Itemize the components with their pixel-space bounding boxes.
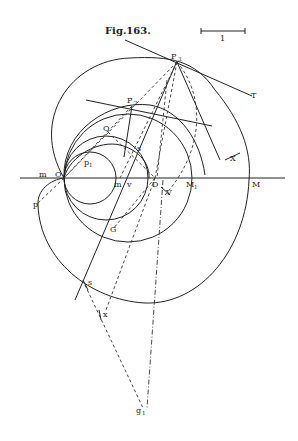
- label-m-left: m: [39, 170, 47, 179]
- label-p2-sub: 2: [134, 100, 138, 106]
- figure-163-diagram: Fig.163. 1: [0, 0, 298, 441]
- label-M: M: [252, 180, 260, 189]
- construction-lines: [36, 62, 240, 408]
- tangent-lines: [75, 40, 252, 300]
- label-s-lower: s: [88, 278, 92, 287]
- label-m-mid: m: [114, 180, 122, 189]
- label-v: v: [126, 180, 132, 189]
- point-labels: P 3 T P 2 Q p 1 s X m O m v D V M 1 M p …: [33, 52, 260, 416]
- label-m1-sub: 1: [194, 184, 198, 190]
- label-g1-sub: 1: [142, 410, 146, 416]
- arc-outer-large: [38, 58, 250, 303]
- label-x-upper: X: [230, 154, 236, 163]
- figure-title: Fig.163.: [105, 25, 151, 36]
- label-p3-sub: 3: [178, 56, 182, 62]
- label-V: V: [165, 188, 172, 197]
- label-s-upper: s: [137, 144, 141, 153]
- line-p3-to-s: [75, 61, 177, 300]
- scale-bar-label: 1: [220, 34, 225, 43]
- label-o: O: [55, 170, 62, 179]
- label-q: Q: [103, 124, 110, 133]
- label-x-lower: x: [103, 310, 108, 319]
- label-p2: P: [127, 96, 133, 105]
- curves: [38, 58, 250, 303]
- label-p: p: [33, 200, 38, 209]
- label-p1-sub: 1: [89, 162, 93, 168]
- label-g: G: [110, 225, 116, 234]
- label-m1: M: [186, 180, 194, 189]
- label-g1: g: [136, 406, 141, 415]
- label-d: D: [152, 180, 158, 189]
- label-p3: P: [171, 52, 177, 61]
- label-t: T: [251, 91, 257, 100]
- scale-bar: 1: [201, 28, 245, 43]
